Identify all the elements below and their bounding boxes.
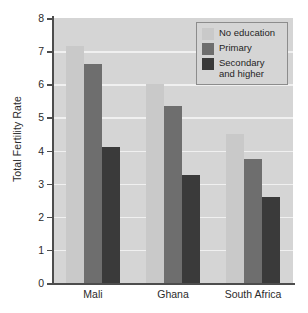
y-axis-line xyxy=(52,16,54,285)
y-tick-mark xyxy=(47,18,52,20)
legend-label-line: Secondary xyxy=(219,58,264,69)
y-tick-label: 3 xyxy=(22,179,44,189)
bar xyxy=(84,64,102,283)
y-tick-mark xyxy=(47,117,52,119)
legend-item[interactable]: Secondaryand higher xyxy=(202,58,282,79)
legend-label: Secondaryand higher xyxy=(219,58,264,79)
legend-item[interactable]: Primary xyxy=(202,43,282,55)
y-tick-label: 7 xyxy=(22,46,44,56)
legend: No educationPrimarySecondaryand higher xyxy=(196,22,288,85)
y-tick-label: 5 xyxy=(22,112,44,122)
bar xyxy=(164,106,182,283)
y-tick-mark xyxy=(47,283,52,285)
bar xyxy=(102,147,120,283)
y-tick-label: 1 xyxy=(22,245,44,255)
x-tick-label: South Africa xyxy=(225,288,282,300)
bar xyxy=(182,175,200,283)
legend-label-line: and higher xyxy=(219,69,264,80)
y-tick-label: 0 xyxy=(22,278,44,288)
bar xyxy=(66,46,84,283)
y-tick-label: 2 xyxy=(22,212,44,222)
y-tick-mark xyxy=(47,217,52,219)
bar xyxy=(146,84,164,283)
y-tick-label: 8 xyxy=(22,13,44,23)
y-tick-mark xyxy=(47,151,52,153)
legend-label-line: Primary xyxy=(219,43,252,54)
y-tick-mark xyxy=(47,51,52,53)
bar xyxy=(226,134,244,283)
legend-label: Primary xyxy=(219,43,252,54)
legend-item[interactable]: No education xyxy=(202,28,282,40)
legend-swatch-icon xyxy=(202,58,214,70)
x-tick-label: Ghana xyxy=(157,288,189,300)
legend-swatch-icon xyxy=(202,43,214,55)
legend-label-line: No education xyxy=(219,28,275,39)
bar-chart: Total Fertility Rate 012345678 MaliGhana… xyxy=(0,0,308,313)
x-tick-label: Mali xyxy=(83,288,102,300)
x-axis-line xyxy=(52,283,295,285)
y-tick-mark xyxy=(47,250,52,252)
y-tick-mark xyxy=(47,84,52,86)
y-tick-label: 6 xyxy=(22,79,44,89)
y-axis-title: Total Fertility Rate xyxy=(11,49,23,229)
y-tick-label: 4 xyxy=(22,146,44,156)
legend-swatch-icon xyxy=(202,28,214,40)
bar xyxy=(244,159,262,283)
legend-label: No education xyxy=(219,28,275,39)
y-tick-mark xyxy=(47,184,52,186)
bar xyxy=(262,197,280,283)
